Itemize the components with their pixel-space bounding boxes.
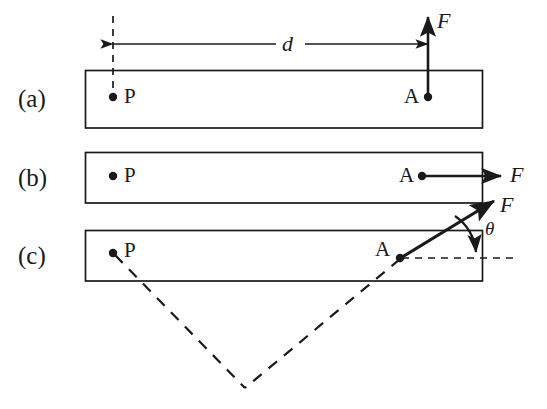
- panel-c-graphics: [86, 201, 517, 388]
- point-a-dot-b: [418, 172, 426, 180]
- distance-label-d: d: [282, 33, 293, 55]
- point-label-p-b: P: [124, 165, 136, 186]
- physics-torque-figure: (a) P A d F (b) P A F (c) P A F θ: [0, 0, 547, 409]
- angle-label-theta: θ: [485, 219, 494, 238]
- point-p-dot-b: [109, 172, 117, 180]
- force-label-f-b: F: [510, 164, 523, 186]
- panel-label-b: (b): [18, 165, 47, 190]
- point-label-a-b: A: [399, 165, 414, 186]
- force-label-f-c: F: [500, 194, 513, 216]
- bar-rectangle-a: [86, 71, 483, 129]
- dashed-line-p-to-vertex: [115, 255, 245, 388]
- panel-label-a: (a): [18, 86, 46, 111]
- point-label-p-c: P: [124, 240, 136, 261]
- panel-b-graphics: [86, 153, 502, 204]
- bar-rectangle-c: [86, 231, 483, 282]
- point-a-dot-c: [396, 254, 404, 262]
- force-label-f-a: F: [437, 10, 450, 32]
- point-a-dot-a: [424, 93, 432, 101]
- panel-label-c: (c): [18, 243, 46, 268]
- dashed-line-a-to-vertex: [245, 259, 400, 388]
- point-p-dot-a: [109, 93, 117, 101]
- figure-canvas: [0, 0, 547, 409]
- point-label-a-c: A: [375, 239, 390, 260]
- point-p-dot-c: [109, 249, 117, 257]
- point-label-a-a: A: [404, 86, 419, 107]
- point-label-p-a: P: [124, 86, 136, 107]
